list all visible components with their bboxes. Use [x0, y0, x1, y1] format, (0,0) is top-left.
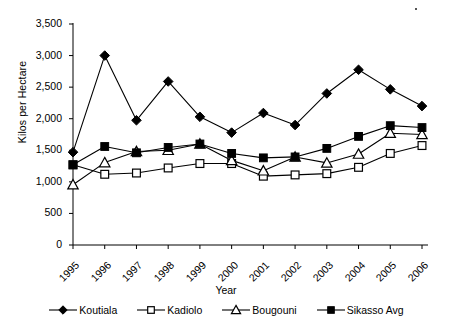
data-point-sikasso-avg: [386, 122, 394, 130]
legend-marker-open-triangle-icon: [221, 304, 251, 316]
data-point-kadiolo: [101, 170, 109, 178]
data-point-bougouni: [100, 157, 110, 166]
data-point-koutiala: [354, 65, 364, 75]
data-point-kadiolo: [386, 150, 394, 158]
data-point-sikasso-avg: [196, 140, 204, 148]
data-point-bougouni: [68, 179, 78, 188]
data-point-koutiala: [385, 85, 395, 95]
legend-item-bougouni[interactable]: Bougouni: [221, 304, 296, 316]
stray-artifact-dot: [415, 8, 417, 10]
data-point-kadiolo: [164, 164, 172, 172]
data-point-koutiala: [100, 51, 110, 61]
data-point-sikasso-avg: [69, 161, 77, 169]
legend-item-sikasso-avg[interactable]: Sikasso Avg: [316, 304, 404, 316]
data-point-koutiala: [417, 101, 427, 111]
plot-area: [0, 0, 452, 333]
legend-label: Koutiala: [79, 304, 117, 316]
data-point-kadiolo: [291, 171, 299, 179]
legend-marker-filled-square-icon: [316, 304, 346, 316]
data-point-sikasso-avg: [164, 144, 172, 152]
data-point-koutiala: [259, 108, 269, 118]
data-point-sikasso-avg: [133, 149, 141, 157]
data-point-kadiolo: [133, 169, 141, 177]
data-point-sikasso-avg: [101, 143, 109, 151]
legend-item-kadiolo[interactable]: Kadiolo: [136, 304, 202, 316]
data-point-sikasso-avg: [228, 150, 236, 158]
data-point-kadiolo: [323, 170, 331, 178]
data-point-kadiolo: [418, 142, 426, 150]
data-point-bougouni: [353, 149, 363, 158]
series-line-sikasso-avg: [73, 126, 422, 165]
data-point-kadiolo: [355, 163, 363, 171]
legend-label: Sikasso Avg: [347, 304, 404, 316]
chart-container: Kilos per Hectare Year 05001,0001,5002,0…: [0, 0, 452, 333]
legend-item-koutiala[interactable]: Koutiala: [48, 304, 117, 316]
data-point-sikasso-avg: [355, 132, 363, 140]
series-line-koutiala: [73, 56, 422, 153]
data-point-kadiolo: [196, 160, 204, 168]
legend-marker-open-square-icon: [136, 304, 166, 316]
data-point-bougouni: [258, 166, 268, 175]
data-point-sikasso-avg: [259, 154, 267, 162]
data-point-koutiala: [227, 128, 237, 138]
legend-label: Kadiolo: [167, 304, 202, 316]
series-line-bougouni: [73, 133, 422, 184]
legend-label: Bougouni: [252, 304, 296, 316]
data-point-sikasso-avg: [323, 144, 331, 152]
chart-legend: KoutialaKadioloBougouniSikasso Avg: [0, 304, 452, 316]
data-point-koutiala: [68, 147, 78, 157]
legend-marker-filled-diamond-icon: [48, 304, 78, 316]
data-point-sikasso-avg: [418, 124, 426, 132]
data-point-sikasso-avg: [291, 153, 299, 161]
